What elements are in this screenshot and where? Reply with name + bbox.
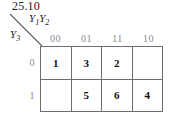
column-header-10: 10 [133, 33, 164, 45]
kmap-cell-r1c3: 4 [133, 80, 163, 112]
kmap-cell-r0c3 [133, 47, 163, 79]
kmap-cell-r0c2: 2 [102, 47, 133, 79]
column-variable-y2-subscript: 2 [45, 18, 49, 27]
row-variable-label: Y3 [10, 28, 20, 45]
kmap-cell-r1c2: 6 [102, 80, 133, 112]
row-header-0: 0 [26, 46, 38, 79]
kmap-cell-r0c1: 3 [72, 47, 103, 79]
row-variable-subscript: 3 [16, 34, 20, 43]
kmap-row-0: 1 3 2 [41, 47, 162, 80]
column-header-00: 00 [40, 33, 71, 45]
column-header-row: 00 01 11 10 [40, 33, 164, 45]
column-header-01: 01 [71, 33, 102, 45]
row-header-column: 0 1 [26, 46, 38, 112]
kmap-cell-r1c1: 5 [72, 80, 103, 112]
row-header-1: 1 [26, 79, 38, 112]
kmap-grid: 1 3 2 5 6 4 [40, 46, 163, 112]
column-header-11: 11 [102, 33, 133, 45]
karnaugh-map-figure: 25.10 Y1Y2 Y3 00 01 11 10 0 1 1 3 2 5 6 [0, 0, 173, 123]
kmap-cell-r0c0: 1 [41, 47, 72, 79]
column-variable-label: Y1Y2 [29, 12, 49, 29]
kmap-cell-r1c0 [41, 80, 72, 112]
kmap-row-1: 5 6 4 [41, 80, 162, 112]
